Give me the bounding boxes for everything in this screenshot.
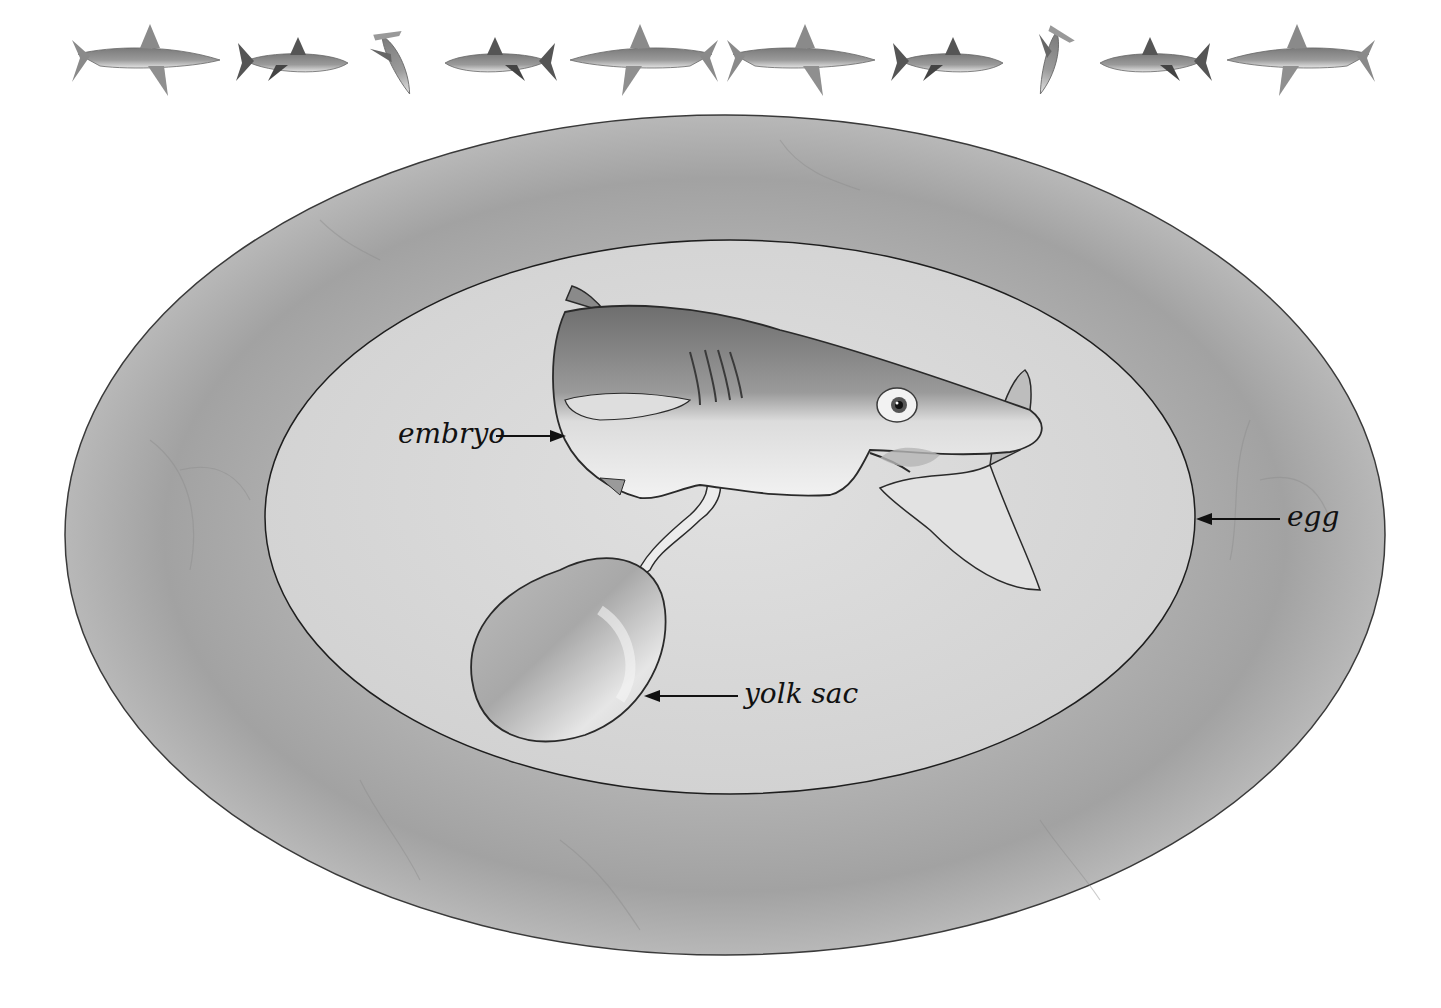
- shark-border-row: [72, 23, 1375, 102]
- hammerhead-shark-icon: [1020, 23, 1077, 99]
- oceanic-whitetip-shark-icon: [727, 24, 875, 96]
- great-white-shark-icon: [445, 37, 557, 81]
- oceanic-whitetip-shark-icon: [72, 24, 220, 96]
- egg-label: egg: [1287, 503, 1339, 531]
- great-white-shark-icon: [236, 37, 348, 81]
- great-white-shark-icon: [891, 37, 1003, 81]
- diagram-canvas: [0, 0, 1441, 1008]
- hammerhead-shark-icon: [366, 25, 423, 101]
- great-white-shark-icon: [1100, 37, 1212, 81]
- embryo-label: embryo: [398, 420, 505, 448]
- shark-egg-diagram: embryo egg yolk sac: [0, 0, 1441, 1008]
- oceanic-whitetip-shark-icon: [1227, 24, 1375, 96]
- yolk-sac-label: yolk sac: [744, 680, 858, 708]
- oceanic-whitetip-shark-icon: [570, 24, 718, 96]
